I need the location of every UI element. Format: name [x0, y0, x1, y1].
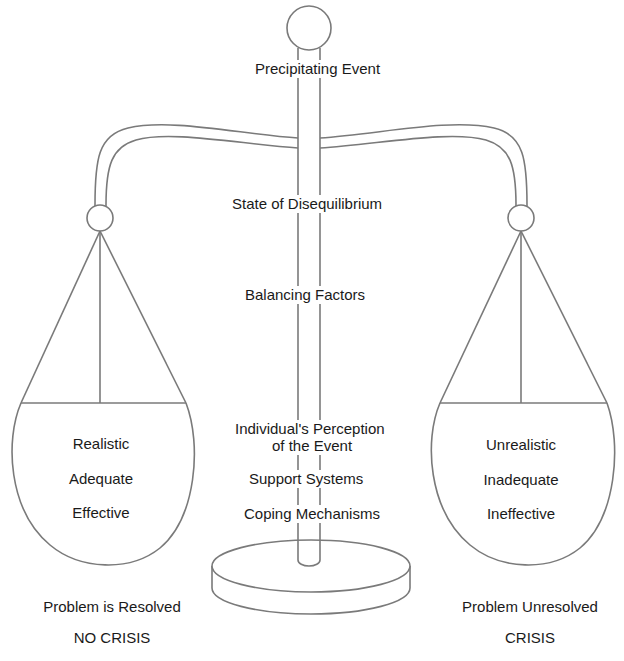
- left-pan-item-realistic: Realistic: [0, 435, 202, 453]
- label-precipitating-event: Precipitating Event: [253, 60, 382, 78]
- right-pan-item-unrealistic: Unrealistic: [420, 436, 622, 454]
- label-coping-mechanisms: Coping Mechanisms: [242, 505, 382, 523]
- left-outcome-label: Problem is Resolved: [22, 598, 202, 616]
- scale-pole: [298, 48, 320, 566]
- label-balancing-factors: Balancing Factors: [243, 286, 367, 304]
- left-pan-item-adequate: Adequate: [0, 470, 202, 488]
- label-perception-line1: Individual's Perception: [233, 420, 387, 438]
- right-result-label: CRISIS: [440, 629, 620, 647]
- left-result-label: NO CRISIS: [22, 629, 202, 647]
- top-knob: [287, 6, 331, 50]
- label-state-of-disequilibrium: State of Disequilibrium: [230, 195, 384, 213]
- right-pan-item-inadequate: Inadequate: [420, 471, 622, 489]
- left-pan-item-effective: Effective: [0, 504, 202, 522]
- balance-scale-drawing: [0, 0, 624, 661]
- label-perception-line2: of the Event: [270, 437, 354, 455]
- label-support-systems: Support Systems: [247, 470, 365, 488]
- right-pan-item-ineffective: Ineffective: [420, 505, 622, 523]
- scale-base: [212, 540, 410, 614]
- right-outcome-label: Problem Unresolved: [440, 598, 620, 616]
